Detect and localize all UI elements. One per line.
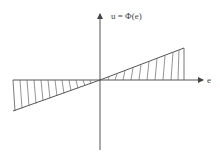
right-hatching xyxy=(108,50,179,80)
y-axis-label: u = Φ(e) xyxy=(111,11,142,21)
left-region-boundary xyxy=(13,80,15,111)
x-axis-label: e xyxy=(207,75,211,85)
left-region-edge xyxy=(13,80,100,111)
diagram-canvas: u = Φ(e) e xyxy=(0,0,220,161)
